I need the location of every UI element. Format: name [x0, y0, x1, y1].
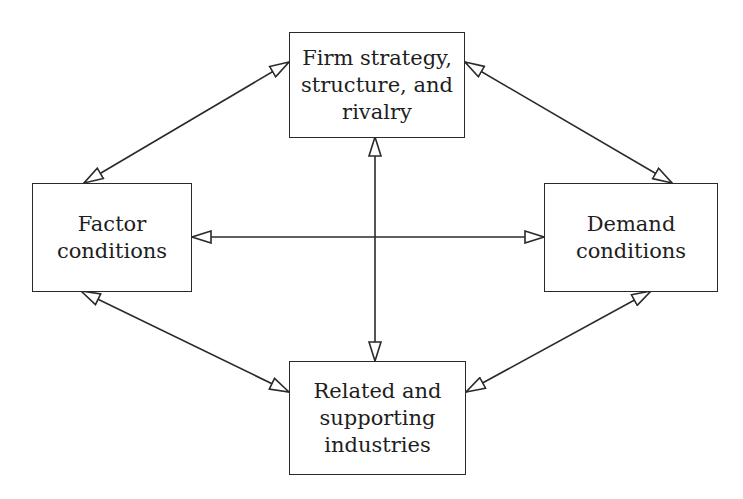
- node-label-line: supporting: [314, 405, 442, 432]
- node-label-line: structure, and: [301, 72, 453, 99]
- node-factor-conditions: Factor conditions: [32, 183, 192, 292]
- node-label-line: conditions: [576, 238, 686, 265]
- node-demand-conditions: Demand conditions: [544, 183, 718, 292]
- node-label-line: Firm strategy,: [301, 45, 453, 72]
- node-label-line: Factor: [57, 211, 167, 238]
- arrow-factor-related: [81, 291, 289, 392]
- node-label-line: Related and: [314, 378, 442, 405]
- arrow-firm-demand: [465, 62, 672, 183]
- porter-diamond-diagram: Firm strategy, structure, and rivalry Fa…: [0, 0, 743, 499]
- node-label-line: rivalry: [301, 99, 453, 126]
- arrow-firm-factor: [84, 62, 289, 183]
- node-label-line: Demand: [576, 211, 686, 238]
- node-label-line: industries: [314, 432, 442, 459]
- node-firm-strategy: Firm strategy, structure, and rivalry: [289, 32, 465, 138]
- node-related-industries: Related and supporting industries: [289, 361, 466, 475]
- arrow-demand-related: [466, 291, 651, 392]
- node-label-line: conditions: [57, 238, 167, 265]
